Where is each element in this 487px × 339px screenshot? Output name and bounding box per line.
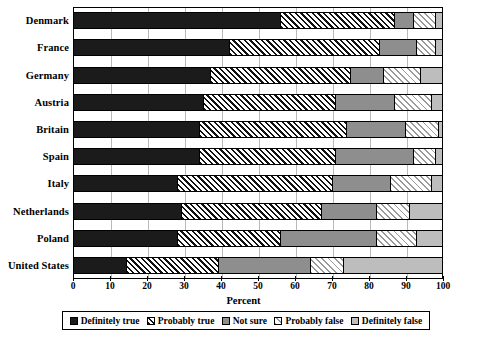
legend-swatch-icon (274, 317, 282, 325)
x-axis-ticks: 0102030405060708090100 (73, 281, 443, 295)
legend-label: Probably false (285, 316, 343, 326)
bar-segment (376, 204, 409, 219)
bar-segment (438, 122, 442, 137)
bar-segment (210, 68, 350, 83)
bar-segment (74, 68, 210, 83)
category-label: Netherlands (0, 203, 69, 220)
bar-segment (431, 176, 442, 191)
legend-label: Not sure (233, 316, 267, 326)
bar-segment (435, 13, 442, 28)
bar-segment (74, 122, 199, 137)
bar-segment (431, 95, 442, 110)
category-axis-labels: DenmarkFranceGermanyAustriaBritainSpainI… (0, 7, 69, 279)
bar-segment (435, 40, 442, 55)
bar-segment (74, 176, 177, 191)
category-label: Britain (0, 121, 69, 138)
bar-segment (74, 40, 229, 55)
bar-segment (310, 258, 343, 273)
x-tick-label: 60 (290, 281, 300, 291)
stacked-bar[interactable] (73, 257, 443, 274)
x-tick-label: 100 (436, 281, 450, 291)
stacked-bar[interactable] (73, 67, 443, 84)
stacked-bar[interactable] (73, 148, 443, 165)
bar-segment (74, 13, 280, 28)
category-label: Spain (0, 148, 69, 165)
x-tick-label: 80 (364, 281, 374, 291)
legend-item[interactable]: Not sure (222, 316, 267, 326)
category-label: France (0, 39, 69, 56)
x-axis-title: Percent (0, 295, 487, 306)
bar-segment (405, 122, 438, 137)
bar-segment (383, 68, 420, 83)
bar-rows (73, 7, 443, 279)
legend-label: Definitely true (81, 316, 140, 326)
bar-segment (379, 40, 416, 55)
bar-segment (74, 258, 126, 273)
bar-row (73, 148, 443, 165)
category-label: Poland (0, 230, 69, 247)
stacked-bar[interactable] (73, 94, 443, 111)
legend-item[interactable]: Definitely true (70, 316, 140, 326)
stacked-bar[interactable] (73, 230, 443, 247)
category-label: Germany (0, 67, 69, 84)
bar-segment (321, 204, 376, 219)
x-tick-label: 90 (401, 281, 411, 291)
category-label: United States (0, 257, 69, 274)
bar-segment (177, 176, 332, 191)
bar-segment (280, 231, 376, 246)
legend-swatch-icon (70, 317, 78, 325)
bar-segment (413, 13, 435, 28)
bar-row (73, 67, 443, 84)
legend-label: Probably true (158, 316, 215, 326)
legend-item[interactable]: Probably false (274, 316, 343, 326)
category-label: Austria (0, 94, 69, 111)
stacked-bar[interactable] (73, 203, 443, 220)
bar-row (73, 203, 443, 220)
stacked-bar-chart: DenmarkFranceGermanyAustriaBritainSpainI… (0, 0, 487, 339)
bar-segment (394, 13, 412, 28)
bar-row (73, 230, 443, 247)
bar-segment (181, 204, 321, 219)
x-tick-label: 50 (253, 281, 263, 291)
stacked-bar[interactable] (73, 121, 443, 138)
bar-segment (218, 258, 310, 273)
bar-segment (343, 258, 442, 273)
bar-segment (126, 258, 218, 273)
legend-item[interactable]: Definitely false (351, 316, 422, 326)
bar-row (73, 121, 443, 138)
bar-segment (335, 149, 412, 164)
bar-segment (346, 122, 405, 137)
bar-segment (74, 231, 177, 246)
bar-segment (280, 13, 394, 28)
x-tick-label: 10 (105, 281, 115, 291)
bar-segment (376, 231, 416, 246)
stacked-bar[interactable] (73, 39, 443, 56)
bar-segment (350, 68, 383, 83)
legend-item[interactable]: Probably true (147, 316, 215, 326)
legend-swatch-icon (147, 317, 155, 325)
x-tick-label: 40 (216, 281, 226, 291)
bar-row (73, 94, 443, 111)
stacked-bar[interactable] (73, 12, 443, 29)
x-tick-label: 70 (327, 281, 337, 291)
stacked-bar[interactable] (73, 175, 443, 192)
bar-segment (177, 231, 280, 246)
legend-swatch-icon (351, 317, 359, 325)
x-tick-label: 20 (142, 281, 152, 291)
category-label: Denmark (0, 12, 69, 29)
legend-label: Definitely false (362, 316, 422, 326)
bar-segment (409, 204, 442, 219)
bar-segment (199, 149, 335, 164)
bar-segment (74, 149, 199, 164)
bar-segment (203, 95, 335, 110)
bar-segment (74, 95, 203, 110)
bar-row (73, 39, 443, 56)
x-tick-label: 30 (179, 281, 189, 291)
bar-row (73, 257, 443, 274)
legend-swatch-icon (222, 317, 230, 325)
bar-segment (416, 231, 442, 246)
bar-row (73, 175, 443, 192)
bar-segment (413, 149, 435, 164)
bar-segment (229, 40, 380, 55)
bar-segment (435, 149, 442, 164)
